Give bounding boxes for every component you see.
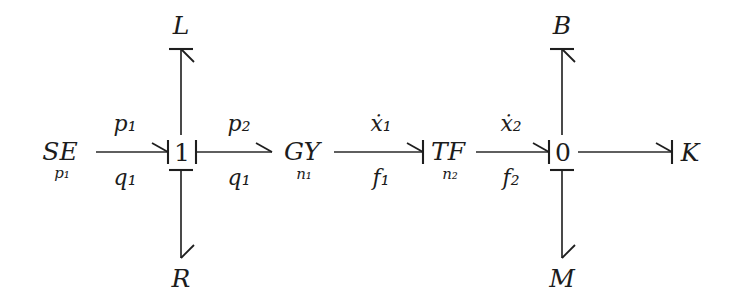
element-sublabel-se: p₁ <box>54 164 70 182</box>
bond-flow-label-se-one: q₁ <box>114 165 137 190</box>
element-label-gy: GY <box>284 137 323 166</box>
element-label-r: R <box>171 264 191 293</box>
half-arrow-zero-to-b <box>562 49 575 62</box>
half-arrow-one-to-l <box>181 49 194 62</box>
element-label-se: SE <box>42 137 77 166</box>
bond-effort-label-tf-zero: ẋ₂ <box>500 111 521 136</box>
half-arrow-se-to-one <box>152 143 168 152</box>
half-arrow-zero-to-m <box>562 245 575 258</box>
bond-effort-label-gy-tf: ẋ₁ <box>370 111 391 136</box>
half-arrow-gy-to-tf <box>407 143 423 152</box>
element-label-m: M <box>548 264 576 293</box>
junction-label-zero: 0 <box>555 138 571 167</box>
element-sublabel-tf: n₂ <box>442 165 458 183</box>
element-label-b: B <box>552 11 571 40</box>
bond-graph-diagram: SE p₁ 1 GY n₁ TF n₂ 0 K L R B M p₁ q₁ p₂… <box>0 0 736 305</box>
element-label-tf: TF <box>431 137 467 166</box>
half-arrow-one-to-gy <box>256 143 272 152</box>
element-label-l: L <box>172 11 190 40</box>
bond-effort-label-one-gy: p₂ <box>228 111 251 136</box>
half-arrow-tf-to-zero <box>533 143 549 152</box>
junction-label-one: 1 <box>174 138 190 167</box>
bond-flow-label-gy-tf: f₁ <box>371 165 390 190</box>
bond-flow-label-tf-zero: f₂ <box>501 165 520 190</box>
bond-effort-label-se-one: p₁ <box>114 111 137 136</box>
half-arrow-zero-to-k <box>656 143 672 152</box>
element-label-k: K <box>680 138 701 167</box>
element-sublabel-gy: n₁ <box>296 165 312 183</box>
bond-flow-label-one-gy: q₁ <box>228 165 251 190</box>
half-arrow-one-to-r <box>181 245 194 258</box>
bond-graph-canvas: SE p₁ 1 GY n₁ TF n₂ 0 K L R B M p₁ q₁ p₂… <box>0 0 736 305</box>
